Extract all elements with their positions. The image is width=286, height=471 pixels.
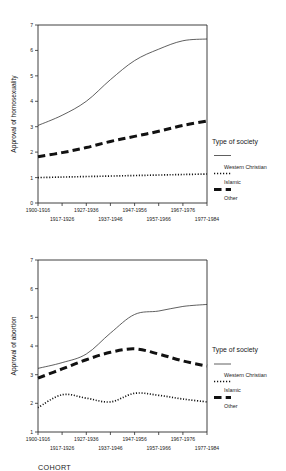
homosexuality-plot: 7 6 5 4 3 2 1 0 1900 bbox=[0, 0, 286, 236]
legend-title: Type of society bbox=[212, 138, 259, 146]
x-label-1947-1956: 1947-1956 bbox=[122, 436, 147, 442]
legend-label-other: Other bbox=[224, 195, 238, 201]
x-label-1977-1984: 1977-1984 bbox=[195, 445, 220, 451]
x-label-1977-1984: 1977-1984 bbox=[195, 216, 220, 222]
y-axis-title-homosexuality: Approval of homosexuality bbox=[10, 75, 18, 153]
y-tick-3: 3 bbox=[30, 372, 33, 378]
series-western-christian bbox=[38, 304, 207, 368]
y-axis-title-abortion: Approval of abortion bbox=[10, 316, 18, 375]
x-label-1967-1976: 1967-1976 bbox=[171, 436, 196, 442]
x-label-1917-1926: 1917-1926 bbox=[50, 445, 75, 451]
x-label-1937-1946: 1937-1946 bbox=[98, 445, 123, 451]
y-axis-ticks-homosexuality: 7 6 5 4 3 2 1 0 bbox=[30, 22, 38, 206]
y-tick-3: 3 bbox=[30, 124, 33, 130]
x-label-1900-1916: 1900-1916 bbox=[26, 207, 51, 213]
x-axis-title-cohort: COHORT bbox=[38, 463, 71, 471]
legend-label-other: Other bbox=[224, 403, 238, 409]
y-tick-6: 6 bbox=[30, 47, 33, 53]
legend-label-western-christian: Western Christian bbox=[224, 372, 267, 378]
abortion-plot: 7 6 5 4 3 2 1 1900-1916 1917-1926 bbox=[0, 236, 286, 471]
series-other bbox=[38, 349, 207, 378]
x-label-1927-1936: 1927-1936 bbox=[74, 436, 99, 442]
x-label-1937-1946: 1937-1946 bbox=[98, 216, 123, 222]
series-other bbox=[38, 121, 207, 157]
legend-label-islamic: Islamic bbox=[224, 179, 241, 185]
x-label-1927-1936: 1927-1936 bbox=[74, 207, 99, 213]
x-label-1967-1976: 1967-1976 bbox=[171, 207, 196, 213]
y-tick-4: 4 bbox=[30, 98, 33, 104]
x-axis-ticks-abortion bbox=[38, 432, 207, 435]
legend-label-islamic: Islamic bbox=[224, 387, 241, 393]
chart-panel-homosexuality: 7 6 5 4 3 2 1 0 1900 bbox=[0, 0, 286, 236]
series-islamic bbox=[38, 174, 207, 178]
x-axis-labels-homosexuality: 1900-1916 1917-1926 1927-1936 1937-1946 … bbox=[26, 207, 220, 222]
x-label-1917-1926: 1917-1926 bbox=[50, 216, 75, 222]
x-label-1900-1916: 1900-1916 bbox=[26, 436, 51, 442]
axis-lines bbox=[38, 260, 207, 432]
legend-abortion: Type of society Western Christian Islami… bbox=[212, 346, 267, 409]
y-tick-1: 1 bbox=[30, 175, 33, 181]
figure-root: 7 6 5 4 3 2 1 0 1900 bbox=[0, 0, 286, 471]
y-tick-1: 1 bbox=[30, 429, 33, 435]
series-islamic bbox=[38, 393, 207, 408]
chart-panel-abortion: 7 6 5 4 3 2 1 1900-1916 1917-1926 bbox=[0, 236, 286, 471]
y-tick-0: 0 bbox=[30, 200, 33, 206]
y-tick-5: 5 bbox=[30, 314, 33, 320]
y-tick-2: 2 bbox=[30, 149, 33, 155]
series-western-christian bbox=[38, 39, 207, 125]
y-tick-5: 5 bbox=[30, 73, 33, 79]
legend-label-western-christian: Western Christian bbox=[224, 164, 267, 170]
x-label-1957-1966: 1957-1966 bbox=[147, 216, 172, 222]
x-axis-labels-abortion: 1900-1916 1917-1926 1927-1936 1937-1946 … bbox=[26, 436, 220, 451]
y-tick-6: 6 bbox=[30, 286, 33, 292]
x-label-1947-1956: 1947-1956 bbox=[122, 207, 147, 213]
y-tick-4: 4 bbox=[30, 343, 33, 349]
y-tick-2: 2 bbox=[30, 400, 33, 406]
y-tick-7: 7 bbox=[30, 257, 33, 263]
legend-title: Type of society bbox=[212, 346, 259, 354]
y-tick-7: 7 bbox=[30, 22, 33, 28]
x-label-1957-1966: 1957-1966 bbox=[147, 445, 172, 451]
legend-homosexuality: Type of society Western Christian Islami… bbox=[212, 138, 267, 201]
y-axis-ticks-abortion: 7 6 5 4 3 2 1 bbox=[30, 257, 38, 435]
